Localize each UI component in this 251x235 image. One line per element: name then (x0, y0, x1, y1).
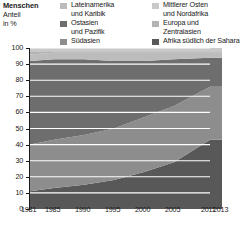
x-tick-label: 1990 (75, 205, 90, 214)
legend-item-middle-east-north-africa: Mittlerer Osten und Nordafrika (152, 0, 251, 18)
chart-canvas (0, 44, 251, 214)
chart-header: Menschen Anteil in % Lateinamerika und K… (0, 0, 251, 44)
legend-swatch-icon (60, 3, 67, 9)
legend-column-1: Lateinamerika und Karibik Ostasien und P… (60, 0, 152, 45)
legend-item-europe-central-asia: Europa und Zentralasien (152, 18, 251, 36)
chart-subtitle-line2: in % (3, 19, 59, 28)
legend-label: Ostasien (71, 18, 152, 27)
x-tick-label: 1985 (45, 205, 60, 214)
stacked-area-plot (30, 48, 222, 209)
legend-column-2: Mittlerer Osten und Nordafrika Europa un… (152, 0, 251, 45)
x-axis-tick-labels: 19811985199019952000200520112013 (0, 205, 251, 221)
legend-label: Europa und (163, 18, 251, 27)
poverty-share-chart-figure: Menschen Anteil in % Lateinamerika und K… (0, 0, 251, 235)
legend-item-latin-america-caribbean: Lateinamerika und Karibik (60, 0, 152, 18)
legend-label-cont: Zentralasien (163, 27, 251, 36)
x-tick-label: 2013 (213, 205, 228, 214)
chart-subtitle-line1: Anteil (3, 10, 59, 19)
x-tick-label: 1995 (105, 205, 120, 214)
legend-label: Mittlerer Osten (163, 0, 251, 9)
legend-swatch-icon (152, 21, 159, 27)
legend-swatch-icon (60, 21, 67, 27)
chart-axis-title: Menschen Anteil in % (3, 1, 59, 28)
legend-label-cont: und Nordafrika (163, 9, 251, 18)
legend-label-cont: und Pazifik (71, 27, 152, 36)
legend-item-east-asia-pacific: Ostasien und Pazifik (60, 18, 152, 36)
chart-legend: Lateinamerika und Karibik Ostasien und P… (60, 0, 251, 44)
x-tick-label: 2005 (165, 205, 180, 214)
legend-swatch-icon (152, 3, 159, 9)
legend-label: Lateinamerika (71, 0, 152, 9)
chart-title: Menschen (3, 1, 59, 10)
legend-label-cont: und Karibik (71, 9, 152, 18)
x-tick-label: 1981 (21, 205, 36, 214)
x-tick-label: 2000 (135, 205, 150, 214)
